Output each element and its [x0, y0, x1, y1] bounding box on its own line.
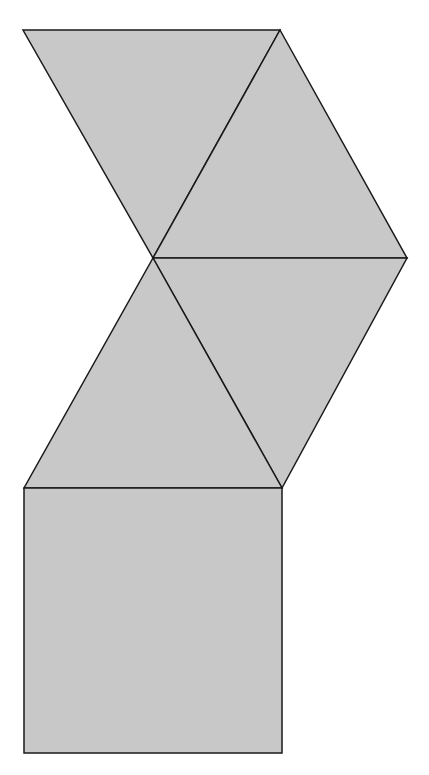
net-diagram	[0, 0, 429, 775]
net-faces	[23, 30, 407, 753]
square-base-face	[24, 488, 282, 753]
